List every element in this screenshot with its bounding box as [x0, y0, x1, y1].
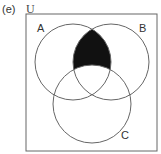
- set-a-label: A: [37, 22, 45, 34]
- venn-diagram: (e) U A B C: [0, 0, 161, 154]
- set-b-label: B: [139, 22, 146, 34]
- figure-label: (e): [2, 3, 15, 15]
- set-c-label: C: [121, 129, 129, 141]
